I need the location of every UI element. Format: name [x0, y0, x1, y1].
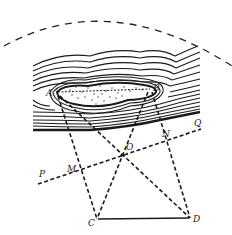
point-o-marker	[120, 153, 123, 156]
summit-stipple	[69, 85, 142, 104]
label-p: P	[38, 169, 46, 179]
label-m: M	[66, 164, 77, 174]
line-cd	[98, 218, 189, 219]
label-d: D	[192, 214, 200, 224]
label-b: B	[152, 83, 160, 93]
label-a: A	[45, 88, 53, 98]
label-c: C	[88, 218, 95, 228]
label-n: N	[161, 129, 171, 139]
surveying-diagram: A B C D O M N P Q	[0, 0, 232, 235]
label-o: O	[126, 142, 134, 152]
hill-contours	[33, 46, 200, 130]
label-q: Q	[194, 118, 202, 128]
line-ab	[58, 89, 150, 92]
